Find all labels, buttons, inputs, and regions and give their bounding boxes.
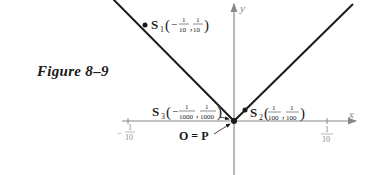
svg-text:1: 1 (160, 25, 164, 34)
svg-text:S: S (151, 17, 158, 32)
svg-text:S: S (152, 104, 159, 119)
svg-text:3: 3 (161, 112, 165, 121)
svg-text:): ) (204, 17, 209, 34)
svg-text:1: 1 (272, 104, 276, 112)
svg-text:1: 1 (182, 16, 186, 24)
svg-text:−: − (171, 18, 177, 30)
svg-text:10: 10 (125, 133, 133, 142)
svg-text:100: 100 (286, 114, 297, 122)
svg-text:1: 1 (290, 104, 294, 112)
svg-text:,: , (282, 109, 285, 120)
svg-text:2: 2 (259, 113, 263, 122)
svg-text:10: 10 (179, 26, 187, 34)
point-s2 (243, 108, 248, 113)
abs-value-graph: x y − 1 10 1 10 S 1 ( − 1 10 , 1 10 ) S … (0, 0, 372, 175)
origin-pointer (214, 124, 230, 134)
svg-text:1: 1 (205, 103, 209, 111)
svg-text:(: ( (165, 17, 170, 34)
s2-label: S 2 ( 1 100 , 1 100 ) (250, 104, 305, 122)
svg-text:1000: 1000 (179, 113, 194, 121)
origin-label: O = P (179, 129, 209, 143)
svg-text:1000: 1000 (200, 113, 215, 121)
pos-tick-label: 1 10 (321, 125, 333, 144)
neg-tick-label: − 1 10 (117, 123, 135, 142)
svg-text:1: 1 (196, 16, 200, 24)
svg-text:−: − (117, 129, 122, 138)
svg-text:−: − (172, 105, 178, 117)
svg-text:,: , (196, 108, 199, 119)
svg-text:1: 1 (185, 103, 189, 111)
svg-text:1: 1 (128, 123, 132, 132)
s3-label: S 3 ( − 1 1000 , 1 1000 ) (152, 103, 229, 121)
point-origin (231, 118, 237, 124)
right-branch (234, 4, 353, 121)
point-s1 (143, 23, 148, 28)
svg-text:10: 10 (322, 135, 330, 144)
svg-text:10: 10 (193, 26, 201, 34)
svg-text:100: 100 (268, 114, 279, 122)
y-axis-label: y (239, 2, 245, 14)
svg-text:(: ( (166, 104, 171, 121)
svg-text:): ) (300, 105, 305, 122)
x-axis-label: x (348, 108, 354, 120)
svg-text:1: 1 (325, 125, 329, 134)
s1-label: S 1 ( − 1 10 , 1 10 ) (151, 16, 209, 34)
svg-text:): ) (217, 104, 222, 121)
svg-text:S: S (250, 105, 257, 120)
